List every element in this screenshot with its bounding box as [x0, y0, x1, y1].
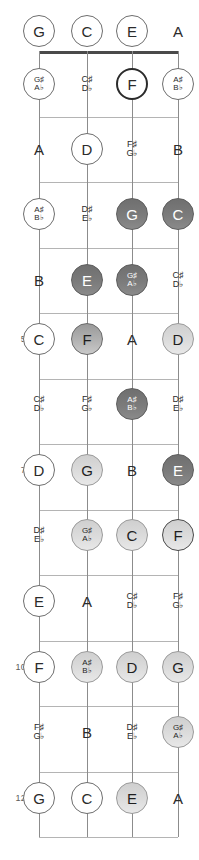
note-marker-G-fret-12[interactable]: G [23, 782, 55, 814]
note-marker-G-fret-4[interactable]: B [22, 263, 56, 297]
note-name: C [82, 791, 93, 806]
note-name-flat: D♭ [173, 280, 184, 289]
note-name-flat: G♭ [33, 732, 44, 741]
note-marker-C-fret-5[interactable]: F [71, 323, 103, 355]
note-name: G [81, 463, 93, 478]
note-marker-A-fret-2[interactable]: B [161, 132, 195, 166]
note-name-flat: B♭ [34, 214, 43, 222]
note-name-flat: D♭ [82, 84, 93, 93]
note-name: B [34, 273, 44, 288]
note-name-flat: E♭ [127, 732, 137, 741]
fret-wire-2 [39, 182, 178, 183]
note-marker-E-fret-10[interactable]: D [116, 651, 148, 683]
nut [39, 51, 178, 54]
note-name: G [33, 24, 45, 39]
note-marker-G-fret-2[interactable]: A [22, 132, 56, 166]
note-marker-E-fret-8[interactable]: C [116, 519, 148, 551]
note-marker-E-fret-5[interactable]: A [115, 322, 149, 356]
note-marker-G-fret-1[interactable]: G♯A♭ [23, 68, 55, 100]
note-marker-C-fret-6[interactable]: F♯G♭ [70, 387, 104, 421]
note-name: B [82, 725, 92, 740]
note-marker-A-fret-11[interactable]: G♯A♭ [162, 716, 194, 748]
note-name: E [127, 24, 137, 39]
note-marker-C-fret-9[interactable]: A [70, 584, 104, 618]
note-marker-E-fret-0[interactable]: E [116, 15, 148, 47]
note-marker-A-fret-5[interactable]: D [162, 323, 194, 355]
note-marker-A-fret-3[interactable]: C [162, 198, 194, 230]
note-name: E [82, 273, 92, 288]
note-marker-E-fret-11[interactable]: D♯E♭ [115, 715, 149, 749]
note-marker-A-fret-10[interactable]: G [162, 651, 194, 683]
note-name: E [173, 463, 183, 478]
note-name-flat: A♭ [82, 535, 91, 543]
note-name-flat: B♭ [82, 667, 91, 675]
fretboard-diagram: 571012 GCEAG♯A♭C♯D♭FA♯B♭ADF♯G♭BA♯B♭D♯E♭G… [0, 0, 199, 860]
fret-wire-12 [39, 837, 178, 838]
note-name: C [82, 24, 93, 39]
note-marker-C-fret-2[interactable]: D [71, 133, 103, 165]
note-marker-C-fret-1[interactable]: C♯D♭ [70, 67, 104, 101]
note-name: F [82, 332, 91, 347]
note-marker-G-fret-0[interactable]: G [23, 15, 55, 47]
note-name: F [34, 660, 43, 675]
note-marker-A-fret-1[interactable]: A♯B♭ [162, 68, 194, 100]
note-marker-E-fret-9[interactable]: C♯D♭ [115, 584, 149, 618]
note-marker-A-fret-0[interactable]: A [161, 14, 195, 48]
fret-wire-9 [39, 641, 178, 642]
fret-wire-5 [39, 379, 178, 380]
note-marker-E-fret-6[interactable]: A♯B♭ [116, 388, 148, 420]
note-marker-G-fret-6[interactable]: C♯D♭ [22, 387, 56, 421]
note-name-flat: E♭ [34, 535, 44, 544]
note-marker-G-fret-7[interactable]: D [23, 454, 55, 486]
note-name: C [173, 207, 184, 222]
note-name: D [34, 463, 45, 478]
note-marker-A-fret-9[interactable]: F♯G♭ [161, 584, 195, 618]
note-marker-C-fret-0[interactable]: C [71, 15, 103, 47]
fret-wire-1 [39, 117, 178, 118]
note-marker-A-fret-8[interactable]: F [162, 519, 194, 551]
note-marker-G-fret-9[interactable]: E [23, 585, 55, 617]
note-marker-C-fret-12[interactable]: C [71, 782, 103, 814]
note-marker-E-fret-12[interactable]: E [116, 782, 148, 814]
fret-wire-7 [39, 510, 178, 511]
note-name: A [173, 791, 183, 806]
fret-wire-6 [39, 444, 178, 445]
note-marker-G-fret-11[interactable]: F♯G♭ [22, 715, 56, 749]
note-marker-A-fret-7[interactable]: E [162, 454, 194, 486]
note-marker-E-fret-2[interactable]: F♯G♭ [115, 132, 149, 166]
note-name-flat: D♭ [34, 404, 45, 413]
note-marker-C-fret-3[interactable]: D♯E♭ [70, 197, 104, 231]
note-marker-G-fret-3[interactable]: A♯B♭ [23, 198, 55, 230]
note-marker-A-fret-4[interactable]: C♯D♭ [161, 263, 195, 297]
note-name-flat: A♭ [173, 732, 182, 740]
note-name: F [127, 77, 136, 92]
note-name-flat: D♭ [127, 601, 138, 610]
note-marker-G-fret-10[interactable]: F [23, 651, 55, 683]
note-marker-E-fret-4[interactable]: G♯A♭ [116, 264, 148, 296]
note-marker-C-fret-10[interactable]: A♯B♭ [71, 651, 103, 683]
note-name-flat: G♭ [81, 404, 92, 413]
note-marker-C-fret-8[interactable]: G♯A♭ [71, 519, 103, 551]
note-name-flat: B♭ [127, 404, 136, 412]
note-marker-E-fret-1[interactable]: F [116, 68, 148, 100]
note-marker-C-fret-4[interactable]: E [71, 264, 103, 296]
note-name-flat: B♭ [173, 84, 182, 92]
note-marker-G-fret-8[interactable]: D♯E♭ [22, 518, 56, 552]
fret-wire-3 [39, 248, 178, 249]
note-marker-C-fret-11[interactable]: B [70, 715, 104, 749]
note-name: G [172, 660, 184, 675]
note-name-flat: G♭ [172, 601, 183, 610]
note-name-flat: E♭ [82, 214, 92, 223]
fret-wire-8 [39, 575, 178, 576]
note-name: B [127, 463, 137, 478]
note-marker-E-fret-7[interactable]: B [115, 453, 149, 487]
note-marker-C-fret-7[interactable]: G [71, 454, 103, 486]
note-name: F [173, 528, 182, 543]
note-marker-A-fret-6[interactable]: D♯E♭ [161, 387, 195, 421]
note-name: E [34, 594, 44, 609]
note-name: B [173, 142, 183, 157]
note-marker-E-fret-3[interactable]: G [116, 198, 148, 230]
note-marker-G-fret-5[interactable]: C [23, 323, 55, 355]
note-marker-A-fret-12[interactable]: A [161, 781, 195, 815]
note-name: C [127, 528, 138, 543]
